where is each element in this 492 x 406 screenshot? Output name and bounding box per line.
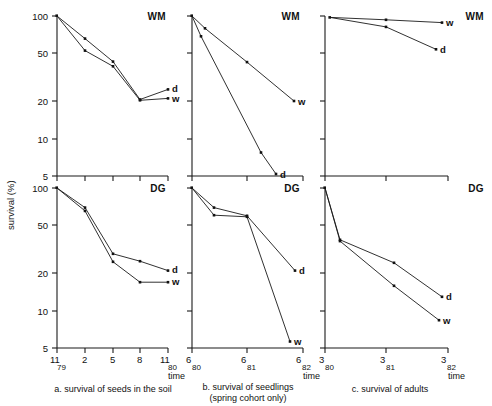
- caption-a: a. survival of seeds in the soil: [54, 384, 172, 394]
- panel-a-top: 100 50 20 10 5: [32, 11, 180, 182]
- series-markers: [190, 186, 296, 342]
- y-tick-20-b: 20: [37, 268, 48, 279]
- x-tick-a-0-bottom: 79: [57, 363, 66, 372]
- series-markers: [55, 14, 169, 101]
- series-d-line: [192, 16, 276, 174]
- caption-b-line1: b. survival of seedlings: [202, 382, 294, 392]
- series-label-d: d: [440, 44, 446, 55]
- panel-label-wm: WM: [281, 11, 300, 22]
- x-tick-b-1-bottom: 81: [247, 363, 256, 372]
- series-w-line: [57, 188, 168, 282]
- y-tick-50-b: 50: [37, 220, 48, 231]
- series-w-line: [192, 16, 294, 101]
- x-axis-title-b: time: [303, 371, 320, 381]
- series-label-w: w: [171, 93, 180, 104]
- x-axis-title-c: time: [448, 371, 465, 381]
- x-tick-c-1-top: 3: [380, 354, 385, 365]
- series-d-line: [57, 188, 168, 271]
- y-tick-10: 10: [37, 134, 48, 145]
- x-tick-b-0-top: 6: [186, 354, 191, 365]
- panel-b-bottom: d w DG 6 80 6 81 6 82 time b. survival o…: [186, 183, 320, 403]
- panel-label-dg: DG: [284, 183, 300, 194]
- x-tick-c-2-top: 3: [441, 354, 446, 365]
- x-axis-title-a: time: [168, 371, 185, 381]
- series-markers: [328, 16, 443, 51]
- x-tick-b-2-top: 6: [296, 354, 301, 365]
- survival-figure: survival (%) 100 50 20 10 5: [0, 0, 492, 406]
- series-label-w: w: [171, 276, 180, 287]
- x-tick-labels-c: 3 80 3 81 3 82: [319, 354, 456, 372]
- panel-label-dg: DG: [150, 183, 166, 194]
- series-label-w: w: [442, 315, 451, 326]
- caption-c: c. survival of adults: [352, 384, 429, 394]
- x-tick-c-1-bottom: 81: [386, 363, 395, 372]
- panel-label-dg: DG: [468, 183, 484, 194]
- series-label-w: w: [445, 17, 454, 28]
- x-tick-c-0-top: 3: [319, 354, 324, 365]
- y-tick-20: 20: [37, 96, 48, 107]
- caption-b-line2: (spring cohort only): [209, 393, 286, 403]
- series-d-line: [57, 16, 168, 100]
- panel-c-bottom: d w DG 3 80 3 81 3 82 time c. survival o…: [319, 183, 484, 394]
- panel-c-top: w d WM: [320, 11, 484, 181]
- series-d-line: [325, 188, 442, 297]
- series-label-d: d: [446, 291, 452, 302]
- series-d-line: [192, 188, 295, 271]
- panel-b-top: w d WM: [187, 11, 306, 181]
- x-tick-b-1-top: 6: [241, 354, 246, 365]
- series-w-line: [57, 16, 168, 100]
- panel-a-bottom: 100 50 20 10 5 d w: [32, 183, 185, 394]
- series-label-w: w: [297, 96, 306, 107]
- x-tick-a-3-top: 8: [137, 354, 142, 365]
- panel-label-wm: WM: [465, 11, 484, 22]
- x-tick-c-0-bottom: 80: [325, 363, 334, 372]
- series-markers: [323, 186, 443, 321]
- series-w-line: [192, 188, 290, 342]
- figure-svg: survival (%) 100 50 20 10 5: [0, 0, 492, 406]
- y-tick-10-b: 10: [37, 306, 48, 317]
- panel-label-wm: WM: [147, 11, 166, 22]
- series-label-d: d: [280, 169, 286, 180]
- y-tick-5: 5: [43, 171, 48, 182]
- y-tick-100: 100: [32, 11, 48, 22]
- y-axis-title: survival (%): [5, 180, 16, 230]
- y-tick-5-b: 5: [43, 343, 48, 354]
- series-label-d: d: [172, 264, 178, 275]
- series-label-d: d: [299, 265, 305, 276]
- x-tick-labels-b: 6 80 6 81 6 82: [186, 354, 311, 372]
- y-tick-50: 50: [37, 48, 48, 59]
- series-markers: [190, 14, 295, 175]
- series-label-w: w: [293, 336, 302, 347]
- series-d-line: [330, 17, 436, 49]
- series-w-line: [325, 188, 439, 320]
- x-tick-a-1-top: 2: [82, 354, 87, 365]
- x-tick-labels-a: 11 79 2 5 8 11 80: [50, 354, 177, 372]
- y-tick-100-b: 100: [32, 183, 48, 194]
- x-tick-b-0-bottom: 80: [192, 363, 201, 372]
- x-tick-a-2-top: 5: [110, 354, 115, 365]
